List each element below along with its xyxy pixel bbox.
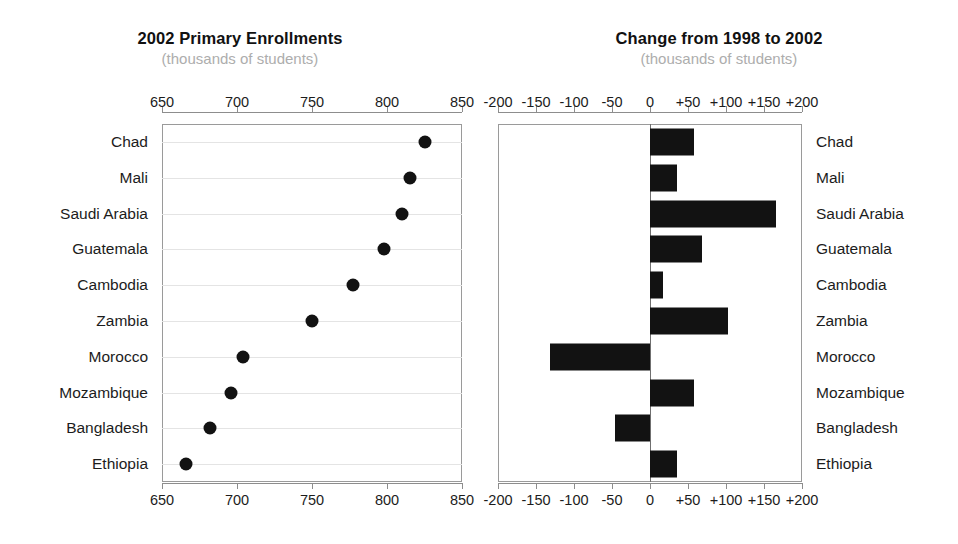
gridline: [162, 464, 462, 465]
data-point: [180, 458, 193, 471]
category-label-right: Zambia: [816, 312, 868, 330]
axis-tick-label: +50: [676, 492, 701, 508]
data-bar: [650, 272, 663, 299]
category-label-right: Mali: [816, 169, 844, 187]
data-bar: [650, 451, 677, 478]
data-bar: [650, 236, 702, 263]
axis-tick-label: 650: [150, 94, 174, 110]
data-point: [237, 350, 250, 363]
left-title-block: 2002 Primary Enrollments (thousands of s…: [0, 28, 480, 68]
data-point: [225, 386, 238, 399]
axis-tick-label: -200: [483, 492, 512, 508]
left-chart-subtitle: (thousands of students): [0, 49, 480, 68]
right-chart-title: Change from 1998 to 2002: [480, 28, 958, 48]
axis-tick: [726, 483, 727, 489]
category-label-left: Saudi Arabia: [60, 205, 148, 223]
data-point: [403, 171, 416, 184]
data-point: [204, 422, 217, 435]
data-bar: [650, 307, 728, 334]
axis-tick-label: +150: [748, 94, 781, 110]
gridline: [162, 178, 462, 179]
axis-tick: [612, 483, 613, 489]
axis-tick-label: -150: [521, 94, 550, 110]
gridline: [162, 357, 462, 358]
data-bar: [550, 343, 650, 370]
category-label-right: Cambodia: [816, 276, 887, 294]
category-label-left: Morocco: [89, 348, 148, 366]
category-label-left: Chad: [111, 133, 148, 151]
category-label-left: Bangladesh: [66, 419, 148, 437]
axis-tick-label: 800: [375, 94, 399, 110]
axis-tick-label: +200: [786, 492, 819, 508]
axis-tick: [237, 483, 238, 489]
axis-tick-label: 0: [646, 94, 654, 110]
axis-tick-label: -150: [521, 492, 550, 508]
category-label-right: Morocco: [816, 348, 875, 366]
axis-tick-label: 0: [646, 492, 654, 508]
axis-tick-label: 750: [300, 492, 324, 508]
axis-rule-top: [498, 112, 802, 113]
axis-tick-label: 700: [225, 94, 249, 110]
axis-tick-label: +100: [710, 492, 743, 508]
axis-tick: [387, 483, 388, 489]
data-bar: [615, 415, 650, 442]
axis-tick: [312, 483, 313, 489]
left-chart-title: 2002 Primary Enrollments: [0, 28, 480, 48]
category-label-right: Ethiopia: [816, 455, 872, 473]
data-point: [418, 135, 431, 148]
axis-tick-label: -100: [559, 492, 588, 508]
category-label-right: Mozambique: [816, 384, 905, 402]
category-label-left: Ethiopia: [92, 455, 148, 473]
gridline: [162, 249, 462, 250]
data-point: [396, 207, 409, 220]
axis-tick-label: +100: [710, 94, 743, 110]
axis-tick: [498, 483, 499, 489]
axis-tick: [574, 483, 575, 489]
gridline: [162, 393, 462, 394]
data-bar: [650, 200, 776, 227]
axis-tick-label: 800: [375, 492, 399, 508]
data-bar: [650, 379, 694, 406]
axis-tick: [462, 483, 463, 489]
axis-tick: [802, 483, 803, 489]
category-label-left: Zambia: [96, 312, 148, 330]
axis-tick-label: +200: [786, 94, 819, 110]
axis-rule-top: [162, 112, 462, 113]
data-bar: [650, 164, 677, 191]
axis-tick-label: 750: [300, 94, 324, 110]
axis-tick-label: -200: [483, 94, 512, 110]
chart-page: { "panels": { "left": { "title": "2002 P…: [0, 0, 958, 544]
category-label-right: Bangladesh: [816, 419, 898, 437]
axis-tick: [764, 483, 765, 489]
category-label-right: Saudi Arabia: [816, 205, 904, 223]
category-label-left: Guatemala: [72, 240, 148, 258]
category-label-left: Mozambique: [59, 384, 148, 402]
axis-tick-label: +50: [676, 94, 701, 110]
axis-tick: [650, 483, 651, 489]
axis-tick: [162, 483, 163, 489]
axis-tick-label: -100: [559, 94, 588, 110]
axis-tick-label: 650: [150, 492, 174, 508]
category-label-right: Chad: [816, 133, 853, 151]
gridline: [162, 142, 462, 143]
gridline: [162, 214, 462, 215]
axis-tick-label: -50: [602, 94, 623, 110]
right-chart-subtitle: (thousands of students): [480, 49, 958, 68]
axis-tick: [536, 483, 537, 489]
category-label-left: Mali: [120, 169, 148, 187]
right-title-block: Change from 1998 to 2002 (thousands of s…: [480, 28, 958, 68]
axis-tick-label: 850: [450, 94, 474, 110]
gridline: [162, 285, 462, 286]
data-bar: [650, 128, 694, 155]
axis-tick-label: 850: [450, 492, 474, 508]
category-label-left: Cambodia: [77, 276, 148, 294]
axis-tick-label: +150: [748, 492, 781, 508]
axis-tick-label: 700: [225, 492, 249, 508]
axis-tick-label: -50: [602, 492, 623, 508]
data-point: [346, 279, 359, 292]
data-point: [378, 243, 391, 256]
axis-tick: [688, 483, 689, 489]
category-label-right: Guatemala: [816, 240, 892, 258]
data-point: [306, 314, 319, 327]
